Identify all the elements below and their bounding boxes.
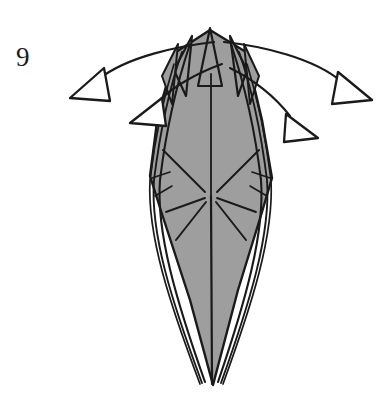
origami-diagram: 9	[0, 0, 391, 400]
inner-left-fold-arrow-head	[130, 98, 166, 126]
center-spine-lower	[211, 196, 212, 384]
outer-left-fold-arrow-head	[70, 68, 110, 101]
origami-illustration-svg	[0, 0, 391, 400]
outer-right-fold-arrow-head	[332, 72, 372, 104]
inner-right-fold-arrow-head	[284, 114, 318, 142]
step-number-label: 9	[16, 44, 30, 71]
